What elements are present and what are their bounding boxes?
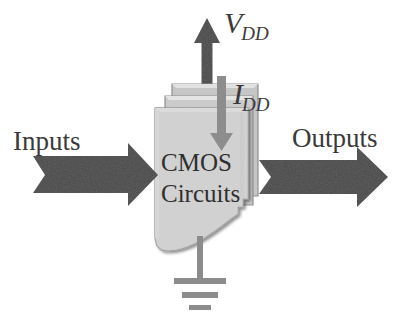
ground-symbol — [174, 278, 226, 310]
idd-subscript: DD — [242, 94, 269, 115]
outputs-label: Outputs — [292, 125, 378, 152]
supply-current-label: IDD — [233, 79, 270, 109]
cmos-block-diagram: Inputs Outputs CMOS Circuits VDD IDD — [0, 0, 398, 328]
inputs-label: Inputs — [13, 128, 81, 155]
block-label-line2: Circuits — [161, 181, 240, 206]
block-label-line1: CMOS — [161, 150, 232, 175]
ground-wire — [197, 236, 203, 280]
vdd-subscript: DD — [241, 23, 268, 44]
supply-voltage-label: VDD — [224, 8, 270, 38]
vdd-base-symbol: V — [224, 6, 242, 39]
output-arrow — [259, 147, 388, 207]
